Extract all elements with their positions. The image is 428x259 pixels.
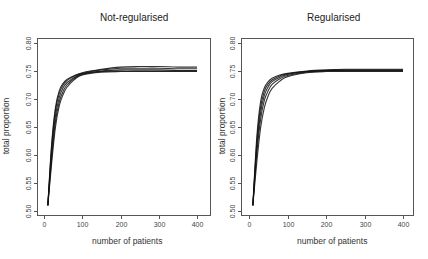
- x-tick-label: 0: [248, 221, 252, 228]
- y-tick-label: 0.65: [25, 121, 32, 135]
- x-tick-label: 100: [77, 221, 89, 228]
- chart-panel-not-regularised: Not-regularised total proportion number …: [0, 0, 214, 259]
- series-line: [48, 70, 197, 206]
- x-tick-label: 100: [283, 221, 295, 228]
- plot-area: 01002003004000.500.550.600.650.700.750.8…: [214, 0, 428, 259]
- y-tick-label: 0.55: [25, 177, 32, 191]
- x-tick-label: 0: [43, 221, 47, 228]
- x-tick-label: 300: [154, 221, 166, 228]
- series-line: [253, 71, 403, 205]
- y-tick-label: 0.75: [25, 65, 32, 79]
- x-tick-label: 200: [116, 221, 128, 228]
- series-line: [253, 71, 403, 205]
- x-tick-label: 400: [192, 221, 204, 228]
- plot-area: 01002003004000.500.550.600.650.700.750.8…: [0, 0, 214, 259]
- series-line: [253, 70, 403, 205]
- series-line: [48, 71, 197, 205]
- y-tick-label: 0.70: [25, 93, 32, 107]
- x-tick-label: 200: [321, 221, 333, 228]
- series-line: [48, 66, 197, 205]
- y-tick-label: 0.50: [229, 205, 236, 219]
- y-tick-label: 0.55: [229, 177, 236, 191]
- plot-frame: [242, 39, 414, 216]
- y-tick-label: 0.80: [229, 37, 236, 51]
- y-tick-label: 0.70: [229, 93, 236, 107]
- series-line: [253, 70, 403, 206]
- y-tick-label: 0.75: [229, 65, 236, 79]
- x-tick-label: 300: [360, 221, 372, 228]
- y-tick-label: 0.50: [25, 205, 32, 219]
- y-tick-label: 0.80: [25, 37, 32, 51]
- x-tick-label: 400: [398, 221, 410, 228]
- series-line: [48, 68, 197, 205]
- y-tick-label: 0.60: [229, 149, 236, 163]
- y-tick-label: 0.65: [229, 121, 236, 135]
- chart-panel-regularised: Regularised total proportion number of p…: [214, 0, 428, 259]
- series-line: [253, 69, 403, 205]
- plot-frame: [38, 39, 211, 216]
- y-tick-label: 0.60: [25, 149, 32, 163]
- series-line: [48, 72, 197, 206]
